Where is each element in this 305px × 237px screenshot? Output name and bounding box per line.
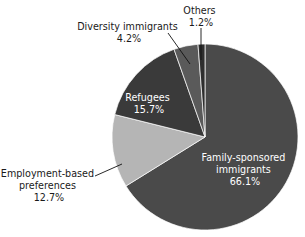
slice-label-family-sponsored-line2: immigrants — [216, 164, 271, 175]
slice-value-others: 1.2% — [189, 17, 213, 28]
slice-label-employment-based-line2: preferences — [19, 180, 76, 191]
slice-label-diversity-immigrants: Diversity immigrants 4.2% — [77, 21, 181, 44]
slice-label-employment-based: Employment-based preferences 12.7% — [1, 168, 97, 203]
slice-label-others: Others 1.2% — [183, 5, 218, 28]
pie-chart-figure: Family-sponsored immigrants 66.1% Refuge… — [0, 0, 305, 237]
slice-label-family-sponsored-line1: Family-sponsored — [202, 152, 286, 163]
slice-value-diversity-immigrants: 4.2% — [117, 33, 141, 44]
pie-chart-svg: Family-sponsored immigrants 66.1% Refuge… — [0, 0, 305, 237]
slice-label-refugees-line1: Refugees — [125, 92, 170, 103]
slice-label-others-line1: Others — [183, 5, 215, 16]
slice-value-family-sponsored: 66.1% — [230, 176, 260, 187]
pie-slices-group — [112, 44, 298, 230]
slice-label-employment-based-line1: Employment-based — [1, 168, 94, 179]
slice-value-employment-based: 12.7% — [34, 192, 64, 203]
slice-value-refugees: 15.7% — [134, 104, 164, 115]
slice-label-diversity-immigrants-line1: Diversity immigrants — [77, 21, 178, 32]
